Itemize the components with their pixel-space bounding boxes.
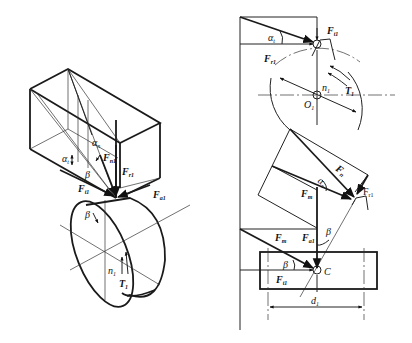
label-F-r1-right: Fr1: [363, 186, 374, 198]
label-F-a1-right: Fa1: [301, 232, 315, 244]
left-isometric-view: αn Fn1 αt β Fr1 Ft1 Fa1 β n1 T1: [30, 69, 190, 315]
label-F-m-upper: Fm: [300, 188, 313, 200]
label-alpha-n: αn: [92, 137, 100, 149]
label-F-t1: Ft1: [77, 183, 89, 195]
label-d1: d1: [311, 295, 319, 307]
label-F-m-lower: Fm: [274, 232, 287, 244]
label-F-a1: Fa1: [152, 189, 166, 201]
label-n1-left: n1: [108, 265, 116, 277]
label-T1-left: T1: [119, 278, 128, 290]
label-beta-upper: β: [325, 226, 331, 237]
helical-gear-force-diagram: αn Fn1 αt β Fr1 Ft1 Fa1 β n1 T1 αt Ft1 F…: [0, 0, 412, 343]
label-n1-top: n1: [322, 82, 330, 94]
label-beta-left: β: [84, 169, 90, 180]
label-F-t1-right: Ft1: [275, 274, 287, 286]
right-bottom-view: Fn αn Fr1 Fm β Fm Fa1 β Ft1 C d1: [240, 129, 377, 320]
label-T1-top: T1: [345, 85, 354, 97]
label-beta-lower: β: [282, 259, 288, 270]
label-F-n1: Fn1: [102, 152, 116, 164]
force-box: [30, 69, 160, 198]
label-beta-cylinder: β: [84, 209, 90, 220]
label-C: C: [324, 266, 331, 277]
label-alpha-t-top: αt: [268, 32, 275, 44]
label-F-r1-top: Fr1: [263, 53, 276, 65]
label-F-t1-top: Ft1: [326, 25, 338, 37]
label-F-r1: Fr1: [121, 166, 134, 178]
label-O1: O1: [304, 99, 314, 111]
gear-cylinder: [58, 193, 190, 316]
label-alpha-t: αt: [62, 153, 69, 165]
